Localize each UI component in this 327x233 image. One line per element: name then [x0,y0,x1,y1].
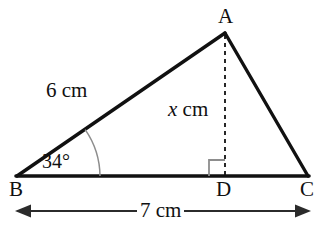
side-length-label-ba: 6 cm [46,80,87,101]
triangle-side-ac [225,33,308,176]
vertex-label-b: B [9,179,23,200]
altitude-length-label-ad: x cm [168,99,208,120]
geometry-figure: A B D C 6 cm x cm 34° 7 cm [0,0,327,233]
vertex-label-c: C [300,179,314,200]
altitude-variable: x [168,97,177,121]
vertex-label-a: A [218,6,233,27]
angle-label-b: 34° [42,151,70,171]
vertex-label-d: D [216,179,231,200]
dimension-arrowhead-left [15,205,31,218]
angle-arc-b [85,130,100,176]
altitude-unit: cm [177,97,208,121]
right-angle-marker-d [209,160,225,176]
dimension-label-bc: 7 cm [137,200,184,221]
dimension-arrowhead-right [295,205,311,218]
